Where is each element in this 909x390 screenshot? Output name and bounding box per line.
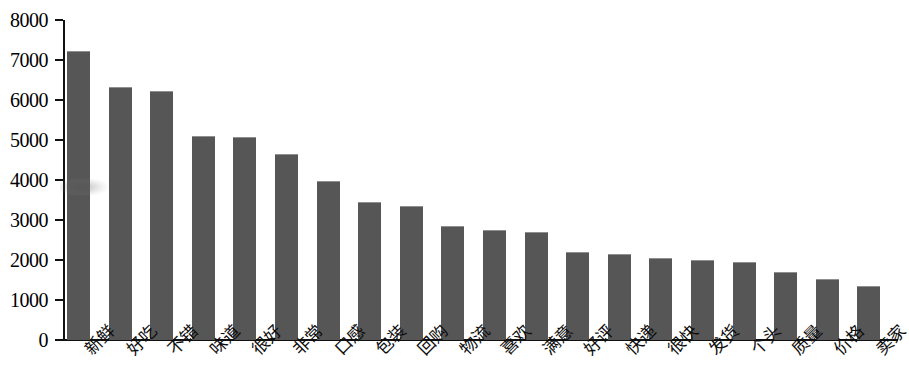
y-axis-tick-label: 2000 xyxy=(0,250,48,270)
y-axis-tick xyxy=(55,99,63,101)
bar xyxy=(150,91,173,340)
y-axis-tick xyxy=(55,299,63,301)
y-axis-tick xyxy=(55,139,63,141)
y-axis-tick xyxy=(55,19,63,21)
y-axis-tick-label: 8000 xyxy=(0,10,48,30)
bar xyxy=(358,202,381,340)
bar xyxy=(441,226,464,340)
bar xyxy=(192,136,215,340)
y-axis-tick-label: 4000 xyxy=(0,170,48,190)
bar xyxy=(483,230,506,340)
bar xyxy=(525,232,548,340)
bar xyxy=(275,154,298,340)
y-axis-tick-label: 6000 xyxy=(0,90,48,110)
bar xyxy=(233,137,256,340)
y-axis-tick xyxy=(55,179,63,181)
bar xyxy=(67,51,90,340)
y-axis-tick xyxy=(55,259,63,261)
bar xyxy=(109,87,132,340)
bar xyxy=(400,206,423,340)
y-axis-tick xyxy=(55,219,63,221)
bar xyxy=(317,181,340,340)
y-axis-tick-label: 3000 xyxy=(0,210,48,230)
y-axis-tick-label: 7000 xyxy=(0,50,48,70)
bar xyxy=(608,254,631,340)
y-axis-tick-label: 5000 xyxy=(0,130,48,150)
y-axis-tick-label: 0 xyxy=(0,330,48,350)
plot-area xyxy=(65,20,898,340)
y-axis-tick xyxy=(55,59,63,61)
y-axis-tick-label: 1000 xyxy=(0,290,48,310)
y-axis-tick xyxy=(55,339,63,341)
